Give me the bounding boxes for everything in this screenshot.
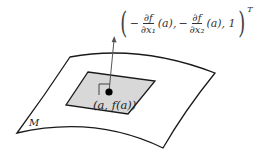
- partial-fraction-1: ∂f ∂x₁: [140, 12, 157, 35]
- frac2-denominator: ∂x₂: [189, 24, 206, 35]
- arg-1: (a),: [158, 17, 177, 30]
- normal-vector-formula: ( − ∂f ∂x₁ (a), − ∂f ∂x₂ (a), 1 ) T: [118, 4, 253, 42]
- point-label: (a, f(a)): [93, 98, 136, 112]
- arrow-head-icon: [112, 36, 117, 42]
- sign-2: −: [178, 17, 187, 30]
- close-paren: ): [238, 8, 245, 38]
- frac1-denominator: ∂x₁: [140, 24, 157, 35]
- partial-fraction-2: ∂f ∂x₂: [189, 12, 206, 35]
- transpose-superscript: T: [247, 5, 252, 14]
- arg-2: (a), 1: [206, 17, 235, 30]
- surface-label: M: [29, 117, 39, 128]
- point-a-fa: [105, 88, 112, 95]
- sign-1: −: [130, 17, 139, 30]
- frac1-numerator: ∂f: [143, 12, 154, 24]
- open-paren: (: [120, 8, 127, 38]
- frac2-numerator: ∂f: [192, 12, 203, 24]
